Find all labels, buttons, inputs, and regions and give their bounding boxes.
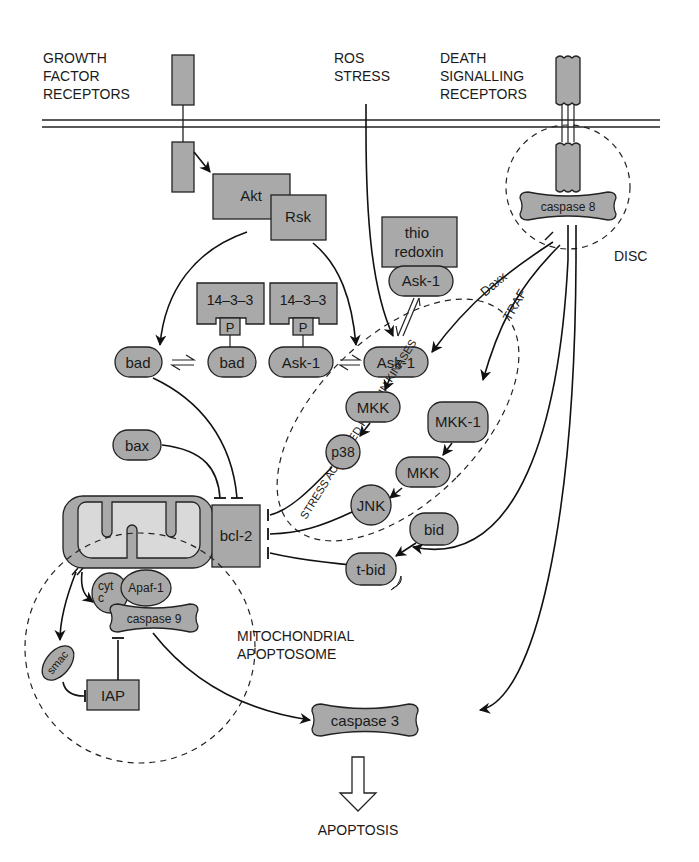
caspase-9-label: caspase 9 xyxy=(127,612,182,626)
p-b-label: P xyxy=(299,320,308,335)
mkk-b-label: MKK xyxy=(407,464,440,481)
growth-factor-receptor xyxy=(172,55,194,192)
growth-factor-label: GROWTH FACTOR RECEPTORS xyxy=(43,50,130,102)
traf-label: TRAF xyxy=(500,287,530,324)
p-a-label: P xyxy=(226,320,235,335)
apaf1-label: Apaf-1 xyxy=(128,581,164,595)
apoptosis-arrow-icon xyxy=(340,757,376,811)
death-receptors-label: DEATH SIGNALLING RECEPTORS xyxy=(440,50,528,102)
disc-label: DISC xyxy=(614,248,647,264)
ask1-bound-label: Ask-1 xyxy=(282,354,320,371)
tbid-label: t-bid xyxy=(356,561,385,578)
bad-bound-label: bad xyxy=(219,354,244,371)
death-receptor xyxy=(556,56,580,192)
bad-equilibrium-arrows xyxy=(172,355,194,370)
bax-label: bax xyxy=(125,437,150,454)
cell-membrane xyxy=(42,120,660,127)
mkk-a-label: MKK xyxy=(357,399,390,416)
apoptosis-pathway-diagram: GROWTH FACTOR RECEPTORS ROS STRESS DEATH… xyxy=(0,0,699,862)
14-3-3-b-label: 14–3–3 xyxy=(280,292,327,308)
apoptosis-label: APOPTOSIS xyxy=(318,822,399,838)
akt-label: Akt xyxy=(240,187,263,204)
bad-free-label: bad xyxy=(125,354,150,371)
rsk-label: Rsk xyxy=(285,208,311,225)
p38-label: p38 xyxy=(331,444,355,460)
caspase-8-label: caspase 8 xyxy=(541,200,596,214)
daxx-label: Daxx xyxy=(477,268,510,299)
ros-stress-label: ROS STRESS xyxy=(334,50,390,84)
jnk-label: JNK xyxy=(357,497,385,514)
mkk1-label: MKK-1 xyxy=(435,413,481,430)
bid-label: bid xyxy=(424,521,444,538)
14-3-3-a-label: 14–3–3 xyxy=(207,292,254,308)
caspase-3-label: caspase 3 xyxy=(331,712,399,729)
ask1-thioredoxin-label: Ask-1 xyxy=(402,272,440,289)
iap-label: IAP xyxy=(101,687,125,704)
ask1-equilibrium-arrows xyxy=(340,355,360,370)
mitochondrion xyxy=(63,496,213,568)
bcl2-label: bcl-2 xyxy=(220,527,253,544)
